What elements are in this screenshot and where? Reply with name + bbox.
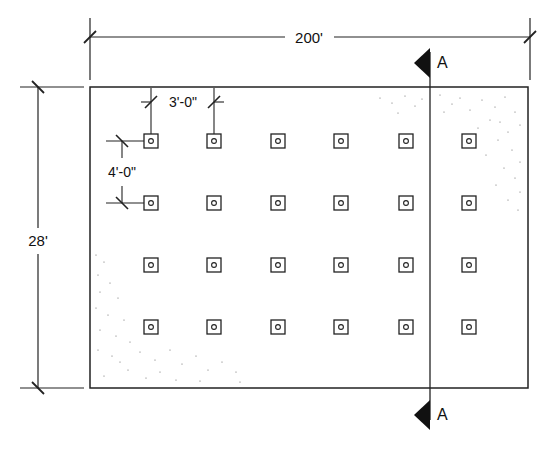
overall-width-dimension <box>84 18 536 80</box>
section-label-top: A <box>437 54 448 71</box>
pier-icon <box>207 196 221 210</box>
overall-depth-label: 28' <box>28 232 48 249</box>
row-spacing-label: 4'-0" <box>108 164 136 180</box>
pier-icon <box>207 134 221 148</box>
pier-icon <box>144 258 158 272</box>
pier-icon <box>399 196 413 210</box>
slab-outline <box>90 87 528 388</box>
pier-icon <box>334 320 348 334</box>
section-arrow-bottom-icon <box>414 400 430 430</box>
pier-icon <box>399 134 413 148</box>
pier-icon <box>144 196 158 210</box>
pier-icon <box>207 258 221 272</box>
pier-grid <box>144 134 476 334</box>
pier-icon <box>271 196 285 210</box>
overall-width-label: 200' <box>295 29 323 46</box>
pier-icon <box>334 134 348 148</box>
pier-icon <box>271 134 285 148</box>
pier-icon <box>144 134 158 148</box>
pier-icon <box>334 258 348 272</box>
concrete-stipple-bottom-left <box>95 254 240 382</box>
pier-icon <box>462 258 476 272</box>
pier-icon <box>334 196 348 210</box>
pier-icon <box>462 320 476 334</box>
section-label-bottom: A <box>437 406 448 423</box>
pier-icon <box>271 258 285 272</box>
pier-icon <box>462 196 476 210</box>
pier-icon <box>399 320 413 334</box>
pier-icon <box>271 320 285 334</box>
section-arrow-top-icon <box>414 48 430 78</box>
concrete-stipple-top-right <box>379 94 520 210</box>
pier-icon <box>462 134 476 148</box>
plan-drawing: 200' 28' 3'-0" 4'-0" A A <box>0 0 553 450</box>
pier-icon <box>399 258 413 272</box>
pier-icon <box>207 320 221 334</box>
column-spacing-label: 3'-0" <box>169 94 197 110</box>
pier-icon <box>144 320 158 334</box>
